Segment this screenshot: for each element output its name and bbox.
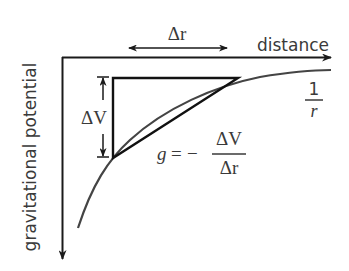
delta-v-label: ΔV <box>81 107 107 128</box>
curve-label: 1 r <box>305 79 323 121</box>
delta-v-indicator: ΔV <box>80 77 109 157</box>
formula-minus: − <box>187 143 198 164</box>
gravitational-potential-diagram: distance gravitational potential 1 r Δr … <box>0 0 349 271</box>
formula-lhs: g <box>157 143 167 164</box>
curve-label-numerator: 1 <box>309 79 320 99</box>
y-axis-label: gravitational potential <box>20 63 40 252</box>
potential-curve <box>78 70 331 228</box>
formula-numerator: ΔV <box>216 128 242 149</box>
formula-denominator: Δr <box>220 157 239 178</box>
gradient-formula: g = − ΔV Δr <box>157 128 246 178</box>
x-axis-label: distance <box>257 35 329 55</box>
delta-r-indicator: Δr <box>129 23 227 48</box>
formula-equals: = <box>171 143 182 164</box>
curve-label-denominator: r <box>310 101 318 121</box>
delta-r-label: Δr <box>168 23 187 44</box>
